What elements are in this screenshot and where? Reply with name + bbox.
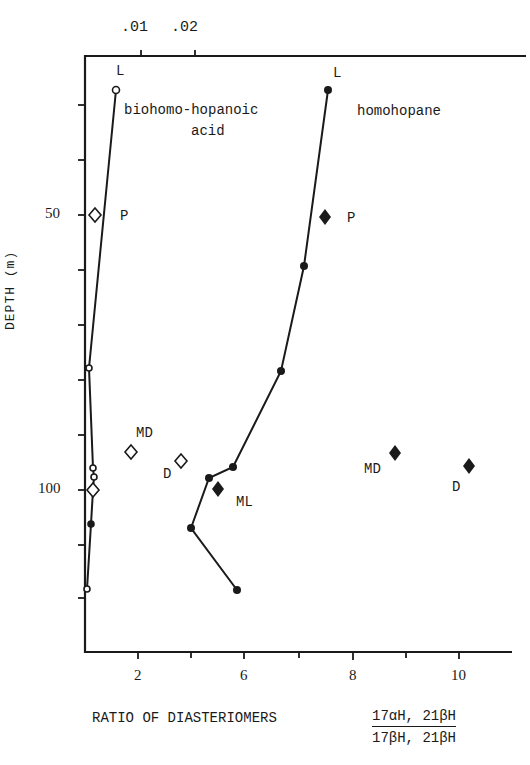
x-axis-ratio-fraction: 17αH, 21βH 17βH, 21βH (372, 709, 456, 745)
fraction-numerator: 17αH, 21βH (372, 709, 456, 727)
top-tick-label-01: .01 (121, 20, 148, 35)
homohopane-series-points (187, 86, 332, 594)
label-P-acid: P (120, 209, 128, 223)
x-axis-title: RATIO OF DIASTERIOMERS (92, 711, 277, 725)
y-tick-label-50: 50 (45, 206, 60, 221)
x-ticks (138, 652, 459, 660)
label-D-homohopane: D (452, 480, 460, 494)
homohopane-series-line (191, 90, 328, 590)
y-axis-title: DEPTH (m) (3, 251, 18, 330)
homohopane-series-label: homohopane (357, 104, 441, 118)
top-tick-label-02: .02 (171, 20, 198, 35)
chart-plot (0, 0, 530, 765)
x-tick-label-10: 10 (451, 668, 466, 683)
acid-series-label-2: acid (191, 124, 225, 138)
acid-open-diamonds (87, 208, 187, 497)
y-tick-label-100: 100 (38, 481, 61, 496)
label-MD-acid: MD (136, 426, 153, 440)
x-tick-label-6: 6 (240, 668, 248, 683)
label-L-homohopane: L (333, 66, 341, 80)
x-tick-label-2: 2 (134, 668, 142, 683)
homohopane-filled-diamonds (212, 209, 475, 497)
label-D-acid: D (163, 467, 171, 481)
acid-series-line (87, 90, 116, 589)
label-P-homohopane: P (347, 211, 355, 225)
label-ML: ML (236, 495, 253, 509)
acid-series-points (84, 87, 120, 593)
fraction-denominator: 17βH, 21βH (372, 727, 456, 745)
x-tick-label-8: 8 (349, 668, 357, 683)
label-L-acid: L (116, 64, 124, 78)
label-MD-homohopane: MD (364, 462, 381, 476)
acid-series-label: biohomo-hopanoic (124, 103, 258, 117)
